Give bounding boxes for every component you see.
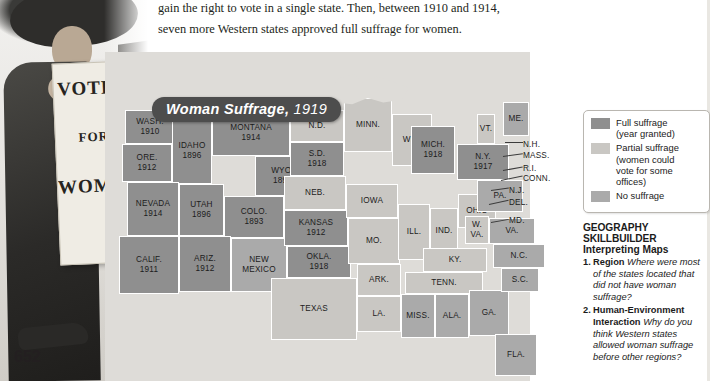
- state-name: TEXAS: [300, 304, 328, 314]
- state-name: MONTANA: [230, 123, 272, 133]
- state-name: GA.: [482, 308, 497, 318]
- map-state: W. VA.: [465, 216, 489, 244]
- geography-skillbuilder: GEOGRAPHY SKILLBUILDER Interpreting Maps…: [583, 222, 703, 363]
- state-callout-label: DEL.: [509, 198, 528, 207]
- map-state: COLO.1893: [224, 196, 284, 238]
- state-name: KANSAS: [299, 218, 333, 228]
- state-name: W. VA.: [466, 220, 488, 239]
- skillbuilder-header: GEOGRAPHY SKILLBUILDER: [583, 222, 703, 244]
- state-year: 1912: [306, 228, 325, 238]
- body-line-2: seven more Western states approved full …: [158, 19, 578, 40]
- legend-label-line: (year granted): [616, 128, 675, 139]
- map-state: IDAHO1896: [172, 118, 212, 184]
- state-name: N.C.: [510, 251, 527, 261]
- question-number: 2.: [583, 305, 593, 363]
- map-state: N.C.: [493, 244, 545, 268]
- state-year: 1896: [192, 210, 211, 220]
- map-state: ORE.1912: [122, 144, 172, 182]
- state-year: 1914: [241, 133, 260, 143]
- legend-swatch-full: [591, 118, 610, 129]
- map-state: ALA.: [435, 294, 469, 338]
- state-name: MINN.: [356, 120, 380, 130]
- state-name: ALA.: [443, 311, 462, 321]
- state-name: MISS.: [406, 311, 429, 321]
- legend-label-line: Partial suffrage: [616, 142, 679, 153]
- map-state: IOWA: [346, 184, 398, 218]
- map-state: FLA.: [495, 334, 537, 376]
- legend-label: No suffrage: [616, 190, 664, 201]
- state-name: ORE.: [137, 153, 158, 163]
- legend-label-line: (women could: [616, 154, 679, 165]
- question-body: Human-Environment Interaction Why do you…: [593, 305, 703, 363]
- state-name: VT.: [480, 124, 492, 134]
- legend-label-line: No suffrage: [616, 190, 664, 201]
- state-name: N.Y.: [475, 152, 491, 162]
- state-callout-label: CONN.: [523, 174, 550, 183]
- state-year: 1911: [140, 265, 158, 275]
- map-state: KY.: [423, 248, 487, 272]
- map-state: MISS.: [401, 294, 435, 338]
- map-state: UTAH1896: [179, 184, 224, 236]
- state-name: NEB.: [305, 188, 325, 198]
- state-name: NEW MEXICO: [232, 255, 286, 274]
- map-title: Woman Suffrage, 1919: [152, 97, 341, 122]
- callout-leader-line: [505, 142, 523, 143]
- map-state: GA.: [469, 290, 509, 336]
- state-name: N.D.: [308, 121, 325, 131]
- state-name: CALIF.: [136, 255, 162, 265]
- state-year: 1912: [137, 163, 156, 173]
- body-line-1: gain the right to vote in a single state…: [158, 0, 578, 19]
- map-state: VT.: [477, 114, 495, 144]
- legend-label-line: offices): [616, 176, 679, 187]
- state-year: 1893: [244, 217, 263, 227]
- legend-label-line: Full suffrage: [616, 117, 675, 128]
- state-year: 1918: [423, 150, 442, 160]
- skillbuilder-question: 1.Region Where were most of the states l…: [583, 257, 703, 303]
- body-paragraph: gain the right to vote in a single state…: [158, 0, 578, 40]
- state-name: IDAHO: [179, 141, 206, 151]
- map-state: S.D.1918: [290, 142, 344, 176]
- state-name: ME.: [508, 114, 523, 124]
- state-name: ARIZ.: [194, 254, 216, 264]
- state-callout-label: MD.: [509, 216, 525, 225]
- state-name: TENN.: [431, 278, 457, 288]
- state-name: ARK.: [369, 275, 389, 285]
- map-state: MICH.1918: [411, 126, 455, 174]
- legend-swatch-none: [591, 191, 610, 202]
- state-name: IND.: [435, 226, 452, 236]
- map-state: CALIF.1911: [119, 236, 179, 294]
- map-state: TEXAS: [271, 278, 357, 340]
- state-callout-label: N.H.: [523, 140, 540, 149]
- map-legend: Full suffrage(year granted)Partial suffr…: [583, 110, 710, 213]
- question-term: Region: [593, 257, 625, 267]
- page-number: 652: [14, 348, 41, 366]
- map-state: MO.: [348, 218, 400, 264]
- legend-label: Partial suffrage(women couldvote for som…: [616, 142, 679, 187]
- state-callout-label: N.J.: [509, 186, 524, 195]
- state-name: PA.: [493, 191, 506, 201]
- map-state: NEVADA1914: [127, 182, 179, 236]
- skillbuilder-subheader: Interpreting Maps: [583, 244, 703, 255]
- map-state: ARK.: [357, 264, 401, 296]
- state-name: S.D.: [309, 149, 326, 159]
- map-state: N.Y.1917: [457, 144, 509, 180]
- question-number: 1.: [583, 257, 593, 303]
- map-title-year: 1919: [294, 101, 327, 117]
- state-year: 1896: [182, 151, 201, 161]
- map-state: KANSAS1912: [284, 210, 348, 246]
- state-name: VA.: [505, 226, 518, 236]
- woman-suffrage-map: WASH.1910ORE.1912IDAHO1896MONTANA1914WYO…: [105, 52, 530, 381]
- state-year: 1918: [309, 262, 328, 272]
- state-year: 1914: [143, 209, 162, 219]
- state-name: OKLA.: [306, 252, 331, 262]
- state-year: 1912: [195, 264, 214, 274]
- legend-label: Full suffrage(year granted): [616, 117, 675, 139]
- state-name: S.C.: [512, 275, 529, 285]
- state-year: 1910: [140, 127, 159, 137]
- legend-item: Full suffrage(year granted): [591, 117, 703, 139]
- legend-item: Partial suffrage(women couldvote for som…: [591, 142, 703, 187]
- state-name: NEVADA: [136, 199, 170, 209]
- state-callout-label: R.I.: [523, 164, 537, 173]
- state-callout-label: MASS.: [523, 151, 549, 160]
